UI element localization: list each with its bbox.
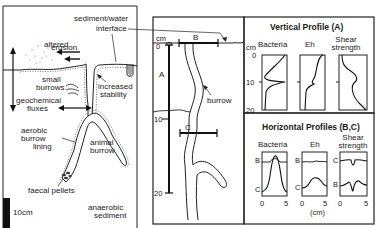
label-erosion: erosion <box>51 43 77 52</box>
arrow-left-icon <box>64 56 70 62</box>
svg-text:C: C <box>333 156 339 165</box>
hp-eh-plot <box>302 152 327 196</box>
arrow-up-icon <box>10 47 16 54</box>
vertical-profile-title: Vertical Profile (A) <box>270 22 343 32</box>
burrow-diagram: altered erosion sediment/water interface… <box>0 0 377 228</box>
transect-c-label: C <box>185 123 191 132</box>
svg-text:B: B <box>295 156 300 165</box>
small-burrows-icon <box>66 84 79 95</box>
label-burrows: burrows <box>36 83 64 92</box>
svg-text:5: 5 <box>323 199 327 208</box>
transect-b-label: B <box>193 33 198 42</box>
svg-text:5: 5 <box>364 199 368 208</box>
scale-bar-label: 10cm <box>13 208 33 217</box>
label-sediment-water: sediment/water <box>74 14 129 23</box>
transect-a-label: A <box>159 70 165 79</box>
vertical-profile-panel: Vertical Profile (A) cm 0 10 20 Bacteria… <box>244 17 374 115</box>
label-faecal-pellets: faecal pellets <box>28 186 75 195</box>
depth-tick-20: 20 <box>154 189 162 198</box>
svg-text:10: 10 <box>246 78 254 87</box>
svg-text:B: B <box>333 180 338 189</box>
label-lining: lining <box>33 142 52 151</box>
horizontal-profiles-title: Horizontal Profiles (B,C) <box>262 122 360 132</box>
vp-eh-label: Eh <box>305 40 315 49</box>
hp-bacteria-label: Bacteria <box>258 140 288 149</box>
label-fluxes: fluxes <box>27 104 48 113</box>
hp-shear-label-2: strength <box>339 141 368 150</box>
left-panel: altered erosion sediment/water interface… <box>3 6 137 228</box>
burrow-label: burrow <box>207 96 232 105</box>
hp-eh-label: Eh <box>310 140 320 149</box>
svg-text:5: 5 <box>284 199 288 208</box>
hp-x-unit: (cm) <box>310 208 325 217</box>
arrow-left-icon <box>58 105 64 111</box>
svg-text:0: 0 <box>300 199 304 208</box>
arrow-down-icon <box>10 105 16 112</box>
sediment-surface-left <box>3 64 86 70</box>
depth-tick-10: 10 <box>154 115 162 124</box>
middle-panel: cm B A 0 10 20 C burrow <box>128 17 244 224</box>
scale-bar <box>3 198 10 228</box>
vp-shear-label-2: strength <box>332 43 361 52</box>
svg-text:C: C <box>255 185 261 194</box>
label-interface: interface <box>96 24 127 33</box>
svg-text:20: 20 <box>246 106 254 115</box>
svg-text:0: 0 <box>338 199 342 208</box>
vp-bacteria-label: Bacteria <box>258 40 288 49</box>
depth-tick-0: 0 <box>156 42 160 51</box>
label-stability: stability <box>100 90 127 99</box>
arrow-right-icon <box>86 105 92 111</box>
svg-text:B: B <box>255 156 260 165</box>
label-sediment: sediment <box>94 211 127 220</box>
svg-text:0: 0 <box>260 199 264 208</box>
svg-text:C: C <box>295 183 301 192</box>
svg-text:0: 0 <box>252 51 256 60</box>
label-animal-burrow: burrow <box>90 146 115 155</box>
horizontal-profiles-panel: Horizontal Profiles (B,C) Bacteria B C 0… <box>244 113 374 224</box>
